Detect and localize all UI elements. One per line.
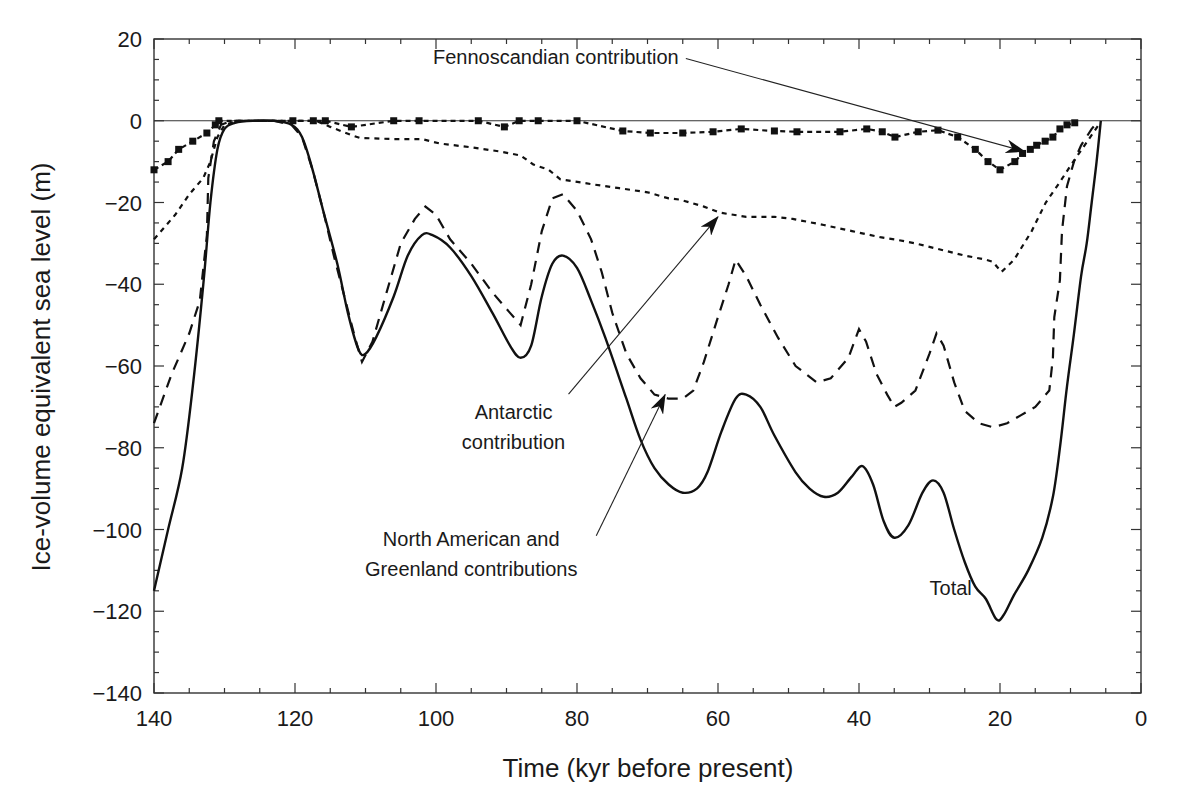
data-marker: [1011, 158, 1018, 165]
data-marker: [1071, 119, 1078, 126]
y-axis-title: Ice-volume equivalent sea level (m): [26, 163, 56, 572]
data-marker: [151, 166, 158, 173]
annotation-label: Fennoscandian contribution: [433, 46, 679, 68]
data-marker: [619, 127, 626, 134]
series-antarctic-contribution: [154, 121, 1099, 272]
data-series: [151, 117, 1101, 620]
data-marker: [1042, 138, 1049, 145]
x-tick-label: 0: [1135, 706, 1147, 731]
data-marker: [738, 125, 745, 132]
data-marker: [954, 134, 961, 141]
data-marker: [416, 117, 423, 124]
x-axis-title: Time (kyr before present): [503, 753, 794, 783]
data-marker: [771, 127, 778, 134]
y-tick-label: −80: [105, 436, 142, 461]
y-tick-label: −20: [105, 191, 142, 216]
data-marker: [322, 117, 329, 124]
data-marker: [915, 128, 922, 135]
y-tick-label: 20: [118, 27, 142, 52]
data-marker: [1049, 134, 1056, 141]
data-marker: [535, 117, 542, 124]
annotations: Fennoscandian contributionAntarcticcontr…: [365, 46, 1025, 599]
data-marker: [175, 146, 182, 153]
x-tick-label: 100: [418, 706, 455, 731]
data-marker: [891, 134, 898, 141]
data-marker: [710, 128, 717, 135]
data-marker: [165, 158, 172, 165]
data-marker: [863, 125, 870, 132]
data-marker: [679, 130, 686, 137]
data-marker: [985, 158, 992, 165]
data-marker: [475, 117, 482, 124]
data-marker: [793, 128, 800, 135]
data-marker: [574, 117, 581, 124]
data-marker: [516, 117, 523, 124]
annotation-antarctic: Antarcticcontribution: [462, 217, 718, 453]
sea-level-chart: 140120100806040200200−20−40−60−80−100−12…: [0, 0, 1180, 808]
data-marker: [203, 130, 210, 137]
annotation-label: contribution: [462, 431, 565, 453]
data-marker: [289, 117, 296, 124]
data-marker: [1056, 125, 1063, 132]
data-marker: [1063, 121, 1070, 128]
series-north-american-and-greenland-contributions: [154, 121, 1099, 428]
y-tick-label: −140: [92, 681, 142, 706]
x-tick-label: 20: [988, 706, 1012, 731]
data-marker: [501, 123, 508, 130]
y-tick-label: 0: [130, 109, 142, 134]
data-marker: [647, 130, 654, 137]
y-tick-label: −60: [105, 354, 142, 379]
x-tick-label: 80: [565, 706, 589, 731]
annotation-label: Total: [930, 577, 972, 599]
y-tick-label: −120: [92, 599, 142, 624]
annotation-fennoscandian: Fennoscandian contribution: [433, 46, 1025, 152]
annotation-arrow: [686, 59, 1025, 152]
data-marker: [215, 117, 222, 124]
x-tick-label: 140: [136, 706, 173, 731]
annotation-label: North American and: [383, 528, 560, 550]
x-tick-label: 40: [847, 706, 871, 731]
annotation-label: Greenland contributions: [365, 558, 577, 580]
data-marker: [836, 128, 843, 135]
data-marker: [189, 138, 196, 145]
data-marker: [1027, 146, 1034, 153]
y-tick-label: −40: [105, 272, 142, 297]
series-total: [154, 120, 1101, 620]
data-marker: [997, 166, 1004, 173]
data-marker: [348, 123, 355, 130]
annotation-label: Antarctic: [475, 401, 553, 423]
data-marker: [310, 117, 317, 124]
data-marker: [972, 146, 979, 153]
annotation-arrow: [596, 395, 665, 536]
x-tick-label: 120: [277, 706, 314, 731]
annotation-arrow: [569, 217, 718, 394]
x-tick-label: 60: [706, 706, 730, 731]
annotation-total: Total: [930, 577, 972, 599]
data-marker: [1033, 142, 1040, 149]
data-marker: [879, 128, 886, 135]
y-tick-label: −100: [92, 518, 142, 543]
data-marker: [390, 117, 397, 124]
